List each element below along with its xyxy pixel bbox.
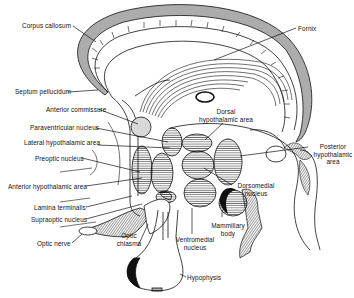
label-line: nucleus bbox=[172, 244, 218, 252]
label-posterior-hypothalamic-area: Posterior hypothalamic area bbox=[312, 143, 354, 166]
label-line: chiasma bbox=[110, 240, 148, 248]
label-lamina-terminalis: Lamina terminalis bbox=[34, 204, 86, 212]
label-line: Optic bbox=[110, 232, 148, 240]
paraventricular-shape bbox=[162, 128, 182, 156]
dorsomedial-shape bbox=[182, 151, 214, 179]
label-dorsomedial-nucleus: Dorsomedial nucleus bbox=[232, 182, 280, 197]
label-line: Ventromedial bbox=[172, 236, 218, 244]
label-mammillary-body: Mammillary body bbox=[207, 222, 249, 237]
label-line: nucleus bbox=[232, 190, 280, 198]
ventromedial-shape bbox=[184, 179, 216, 207]
anterior-hypothalamic-shape bbox=[151, 153, 173, 193]
label-optic-chiasma: Optic chiasma bbox=[110, 232, 148, 247]
label-paraventricular-nucleus: Paraventricular nucleus bbox=[30, 124, 99, 132]
label-lateral-hypothalamic-area: Lateral hypothalamic area bbox=[24, 139, 100, 147]
label-line: hypothalamic bbox=[312, 151, 354, 159]
label-optic-nerve: Optic nerve bbox=[37, 240, 71, 248]
hypothalamus-diagram: Corpus callosum Fornix Septum pellucidum… bbox=[0, 0, 354, 298]
preoptic-nucleus-shape bbox=[132, 146, 152, 194]
label-septum-pellucidum: Septum pellucidum bbox=[15, 88, 71, 96]
label-line: Dorsomedial bbox=[232, 182, 280, 190]
posterior-commissure-shape bbox=[266, 146, 286, 162]
corpus-callosum-shape bbox=[78, 5, 312, 142]
label-hypophysis: Hypophysis bbox=[187, 274, 221, 282]
label-corpus-callosum: Corpus callosum bbox=[22, 22, 71, 30]
label-line: area bbox=[312, 158, 354, 166]
dorsal-hypothalamic-shape bbox=[182, 134, 212, 152]
label-line: hypothalamic area bbox=[196, 116, 256, 124]
interthalamic-adhesion bbox=[196, 92, 214, 102]
label-line: Mammillary bbox=[207, 222, 249, 230]
anterior-commissure-shape bbox=[131, 117, 151, 137]
label-anterior-hypothalamic-area: Anterior hypothalamic area bbox=[8, 183, 87, 191]
label-line: Posterior bbox=[312, 143, 354, 151]
label-ventromedial-nucleus: Ventromedial nucleus bbox=[172, 236, 218, 251]
label-preoptic-nucleus: Preoptic nucleus bbox=[35, 155, 84, 163]
label-anterior-commissure: Anterior commissure bbox=[46, 106, 107, 114]
label-dorsal-hypothalamic-area: Dorsal hypothalamic area bbox=[196, 108, 256, 123]
label-supraoptic-nucleus: Supraoptic nucleus bbox=[31, 216, 87, 224]
label-line: Dorsal bbox=[196, 108, 256, 116]
posterior-nucleus-shape bbox=[214, 139, 242, 185]
label-fornix: Fornix bbox=[298, 25, 316, 33]
diagram-artwork bbox=[0, 0, 354, 298]
